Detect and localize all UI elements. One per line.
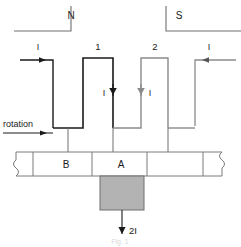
branch-current-right-label: I [149, 88, 152, 98]
south-pole-label: S [176, 10, 183, 21]
commutator-segment-b-label: B [63, 159, 70, 170]
rotation-arrow [3, 130, 53, 135]
commutator-segment-a-label: A [118, 159, 125, 170]
branch-current-arrow-right [137, 84, 145, 96]
north-pole-label: N [67, 10, 74, 21]
north-pole-bracket [14, 6, 71, 31]
rotation-label: rotation [3, 119, 33, 129]
figure-caption: Fig. 1 [111, 238, 129, 246]
commutator-lead-drops [68, 128, 168, 152]
left-current-arrowhead [39, 57, 46, 62]
branch-current-arrow-left [109, 84, 117, 96]
branch-current-left-label: I [103, 88, 106, 98]
left-supply-lead [20, 57, 53, 128]
figure-canvas: N S I I 1 2 I I rotation B A 2I Fig. 1 [0, 0, 241, 247]
right-current-label: I [208, 42, 211, 52]
coil-2-label: 2 [152, 41, 157, 52]
coil-1-label: 1 [95, 41, 100, 52]
output-current-arrow [118, 210, 125, 234]
output-current-label: 2I [129, 225, 137, 236]
right-supply-lead [195, 57, 236, 126]
brush-block [100, 176, 144, 210]
left-current-label: I [37, 42, 40, 52]
right-current-arrowhead [202, 57, 209, 62]
motor-commutator-figure: N S I I 1 2 I I rotation B A 2I Fig. 1 [0, 0, 241, 247]
